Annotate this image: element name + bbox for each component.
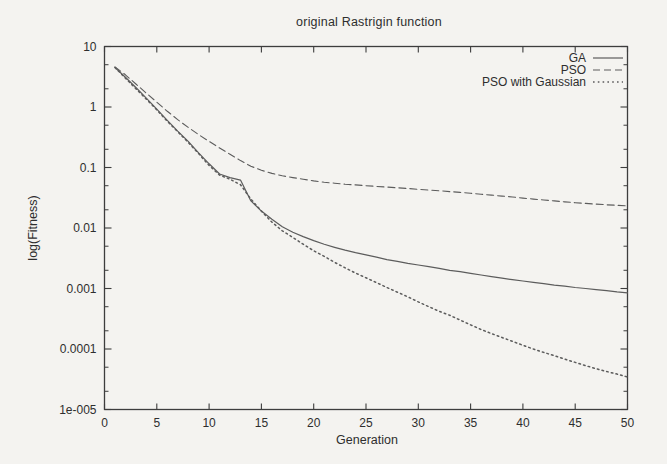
- x-tick-label: 0: [101, 416, 108, 430]
- x-tick-label: 15: [255, 416, 269, 430]
- y-tick-label: 0.01: [73, 221, 97, 235]
- scanned-chart-page: original Rastrigin function log(Fitness)…: [0, 0, 667, 464]
- legend-label-pso-with-gaussian: PSO with Gaussian: [482, 75, 586, 89]
- y-tick-label: 10: [83, 40, 97, 54]
- plot-border: [105, 47, 628, 410]
- y-tick-label: 0.001: [66, 282, 96, 296]
- plot-area: 051015202530354045501010.10.010.0010.000…: [0, 0, 667, 464]
- x-tick-label: 50: [621, 416, 635, 430]
- x-tick-label: 30: [412, 416, 426, 430]
- x-tick-label: 20: [307, 416, 321, 430]
- x-tick-label: 5: [153, 416, 160, 430]
- y-tick-label: 0.0001: [60, 342, 97, 356]
- y-tick-label: 1e-005: [59, 403, 97, 417]
- x-tick-label: 35: [464, 416, 478, 430]
- series-line-ga: [115, 68, 628, 293]
- x-tick-label: 40: [516, 416, 530, 430]
- y-tick-label: 0.1: [80, 161, 97, 175]
- y-tick-label: 1: [90, 100, 97, 114]
- x-tick-label: 10: [202, 416, 216, 430]
- x-tick-label: 45: [569, 416, 583, 430]
- x-tick-label: 25: [359, 416, 373, 430]
- series-line-pso-with-gaussian: [115, 68, 628, 378]
